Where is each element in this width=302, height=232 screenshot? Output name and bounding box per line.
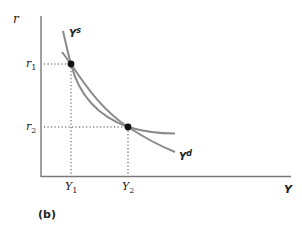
ys-curve-label: Ys (69, 27, 81, 39)
panel-label: (b) (38, 209, 56, 220)
yd-curve-label: Yd (179, 150, 192, 162)
ys-curve (63, 31, 175, 134)
x-tick-y1: Y1 (65, 181, 77, 195)
y-tick-r1: r1 (26, 58, 36, 72)
equilibrium-point-1 (68, 61, 75, 68)
x-tick-y2: Y2 (122, 181, 134, 195)
yd-curve (62, 52, 175, 152)
equilibrium-point-2 (125, 124, 132, 131)
chart-svg (0, 0, 302, 232)
x-axis-label: Y (284, 184, 292, 195)
y-tick-r2: r2 (26, 121, 36, 135)
chart-container: r Y r1 r2 Y1 Y2 Ys Yd (b) (0, 0, 302, 232)
y-axis-label: r (13, 13, 19, 25)
